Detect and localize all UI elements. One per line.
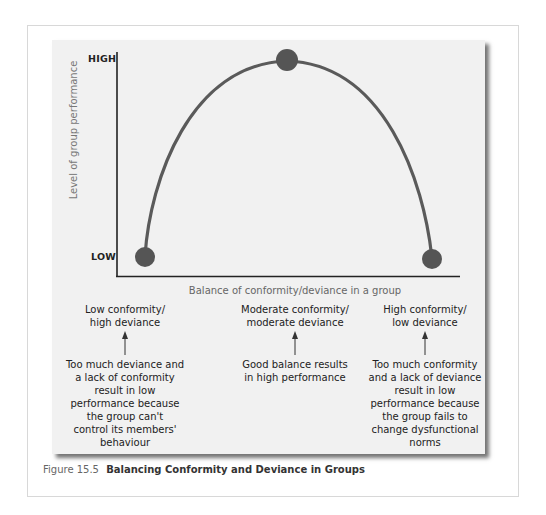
point-high-conformity: [422, 249, 442, 269]
arrow-up-icon: [420, 331, 430, 355]
annotation-text: result in low: [55, 384, 195, 397]
annotation-heading: Moderate conformity/: [225, 303, 365, 316]
annotation-text: Good balance results: [225, 358, 365, 371]
annotation-heading: High conformity/: [360, 303, 490, 316]
figure-number: Figure 15.5: [43, 464, 99, 475]
figure-title: Balancing Conformity and Deviance in Gro…: [106, 464, 365, 475]
annotation-heading: high deviance: [55, 316, 195, 329]
y-tick-high: HIGH: [88, 53, 116, 64]
annotation-text: Too much deviance and: [55, 358, 195, 371]
point-moderate-conformity: [276, 49, 298, 71]
point-low-conformity: [135, 247, 155, 267]
annotation-text: and a lack of deviance: [360, 371, 490, 384]
annotation-text: performance because: [360, 397, 490, 410]
annotation-text: norms: [360, 436, 490, 449]
annotation-text: performance because: [55, 397, 195, 410]
annotation-text: the group fails to: [360, 410, 490, 423]
annotation-text: Too much conformity: [360, 358, 490, 371]
figure-caption: Figure 15.5 Balancing Conformity and Dev…: [43, 464, 365, 475]
annotation-text: in high performance: [225, 371, 365, 384]
annotation-text: change dysfunctional: [360, 423, 490, 436]
annotation-low-conformity: Low conformity/ high deviance Too much d…: [55, 303, 195, 449]
annotation-heading: moderate deviance: [225, 316, 365, 329]
annotation-text: control its members': [55, 423, 195, 436]
annotation-text: behaviour: [55, 436, 195, 449]
annotation-heading: Low conformity/: [55, 303, 195, 316]
performance-curve: [145, 61, 432, 259]
annotation-text: result in low: [360, 384, 490, 397]
y-axis-label: Level of group performance: [68, 30, 79, 230]
annotation-text: a lack of conformity: [55, 371, 195, 384]
annotation-heading: low deviance: [360, 316, 490, 329]
annotation-high-conformity: High conformity/ low deviance Too much c…: [360, 303, 490, 449]
arrow-up-icon: [290, 331, 300, 355]
arrow-up-icon: [120, 331, 130, 355]
annotation-text: the group can't: [55, 410, 195, 423]
x-axis-label: Balance of conformity/deviance in a grou…: [120, 285, 470, 296]
y-tick-low: LOW: [91, 251, 116, 262]
annotation-moderate-conformity: Moderate conformity/ moderate deviance G…: [225, 303, 365, 384]
